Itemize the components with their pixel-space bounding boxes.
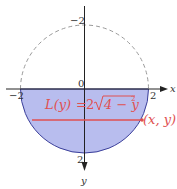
formula: L(y) = 2 4 − y 2 (44, 95, 139, 112)
tick-left: −2 (9, 90, 24, 101)
formula-exponent: 2 (131, 95, 135, 103)
diagram-svg: −2 −2 2 0 2 x y L(y) = 2 4 − y 2 (x, y) (0, 0, 177, 189)
y-axis-label: y (80, 175, 87, 186)
tick-top: −2 (70, 15, 85, 26)
formula-lhs: L(y) (44, 97, 71, 112)
x-axis-arrow-icon (160, 86, 168, 92)
point-label: (x, y) (143, 112, 176, 127)
diagram-canvas: −2 −2 2 0 2 x y L(y) = 2 4 − y 2 (x, y) (0, 0, 177, 189)
tick-bottom: 2 (77, 154, 83, 165)
x-axis-label: x (170, 83, 176, 94)
formula-coefficient: 2 (86, 97, 94, 112)
tick-right: 2 (150, 90, 156, 101)
origin-label: 0 (78, 78, 84, 89)
